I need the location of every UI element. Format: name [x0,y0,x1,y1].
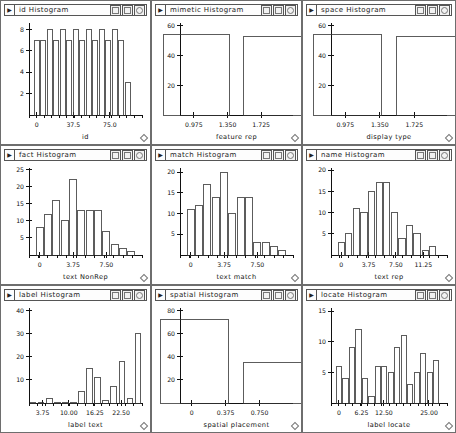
svg-text:5: 5 [20,234,24,241]
histogram-bar [244,362,301,403]
plot-area-id-histogram[interactable]: 2468037.575.0id [1,17,150,144]
histogram-bar [61,221,68,255]
close-circle-icon[interactable] [439,5,450,16]
resize-handle-icon[interactable] [291,134,298,141]
panel-title: id Histogram [15,5,110,15]
close-circle-icon[interactable] [285,5,296,16]
close-circle-icon[interactable] [285,290,296,301]
plot-area-spatial-histogram[interactable]: 2040608000.3750.750spatial placement [152,302,301,432]
menu-arrow-icon[interactable]: ▶ [307,290,317,300]
minimize-box-icon[interactable] [415,150,426,161]
histogram-bar [30,402,36,403]
svg-text:5: 5 [171,230,175,237]
minimize-box-icon[interactable] [110,5,121,16]
panel-match-histogram[interactable]: ▶match Histogram510152003.757.50text mat… [151,145,302,285]
close-circle-icon[interactable] [439,150,450,161]
titlebar-fact-histogram[interactable]: ▶fact Histogram [4,149,147,161]
panel-fact-histogram[interactable]: ▶fact Histogram51015202503.757.50text No… [0,145,151,285]
menu-arrow-icon[interactable]: ▶ [307,150,317,160]
window-controls [110,150,146,160]
resize-handle-icon[interactable] [445,274,452,281]
maximize-box-icon[interactable] [427,290,438,301]
maximize-box-icon[interactable] [273,150,284,161]
svg-text:25: 25 [16,166,24,173]
minimize-box-icon[interactable] [261,5,272,16]
resize-handle-icon[interactable] [140,134,147,141]
minimize-box-icon[interactable] [261,290,272,301]
plot-area-space-histogram[interactable]: 2040600.9751.3501.725display type [303,17,455,144]
window-controls [261,290,297,300]
histogram-bar [382,366,387,403]
resize-handle-icon[interactable] [445,134,452,141]
panel-space-histogram[interactable]: ▶space Histogram2040600.9751.3501.725dis… [302,0,456,145]
plot-area-locate-histogram[interactable]: 5101506.2512.5025.00label locate [303,302,455,432]
close-circle-icon[interactable] [134,290,145,301]
histogram-bar [369,397,374,403]
menu-arrow-icon[interactable]: ▶ [5,290,15,300]
histogram-bar [41,40,46,115]
maximize-box-icon[interactable] [122,5,133,16]
close-circle-icon-glyph [441,7,448,14]
close-circle-icon[interactable] [285,150,296,161]
menu-arrow-icon[interactable]: ▶ [156,5,166,15]
close-circle-icon-glyph [441,292,448,299]
svg-text:60: 60 [318,22,326,29]
titlebar-id-histogram[interactable]: ▶id Histogram [4,4,147,16]
histogram-bar [196,205,203,255]
panel-id-histogram[interactable]: ▶id Histogram2468037.575.0id [0,0,151,145]
maximize-box-icon[interactable] [273,290,284,301]
close-circle-icon-glyph [136,7,143,14]
menu-arrow-icon[interactable]: ▶ [307,5,317,15]
minimize-box-icon[interactable] [415,5,426,16]
close-circle-icon[interactable] [439,290,450,301]
minimize-box-icon[interactable] [110,290,121,301]
maximize-box-icon[interactable] [427,150,438,161]
titlebar-spatial-histogram[interactable]: ▶spatial Histogram [155,289,298,301]
histogram-bar [80,40,85,115]
titlebar-name-histogram[interactable]: ▶name Histogram [306,149,452,161]
plot-area-mimetic-histogram[interactable]: 2040600.9751.3501.725feature rep [152,17,301,144]
svg-text:8: 8 [20,26,24,33]
resize-handle-icon[interactable] [140,274,147,281]
histogram-bar [187,209,194,255]
minimize-box-icon[interactable] [415,290,426,301]
histogram-bar [271,247,278,255]
close-circle-icon[interactable] [134,5,145,16]
svg-text:6.25: 6.25 [355,409,369,416]
maximize-box-icon[interactable] [427,5,438,16]
panel-name-histogram[interactable]: ▶name Histogram510152003.757.5011.25text… [302,145,456,285]
titlebar-locate-histogram[interactable]: ▶locate Histogram [306,289,452,301]
resize-handle-icon[interactable] [291,422,298,429]
maximize-box-icon[interactable] [122,150,133,161]
resize-handle-icon[interactable] [291,274,298,281]
menu-arrow-icon[interactable]: ▶ [156,150,166,160]
panel-locate-histogram[interactable]: ▶locate Histogram5101506.2512.5025.00lab… [302,285,456,433]
titlebar-match-histogram[interactable]: ▶match Histogram [155,149,298,161]
menu-arrow-icon[interactable]: ▶ [5,150,15,160]
titlebar-mimetic-histogram[interactable]: ▶mimetic Histogram [155,4,298,16]
maximize-box-icon[interactable] [273,5,284,16]
close-circle-icon[interactable] [134,150,145,161]
plot-area-label-histogram[interactable]: 102030403.7510.0016.2522.50label text [1,302,150,432]
histogram-bar [369,191,375,255]
panel-label-histogram[interactable]: ▶label Histogram102030403.7510.0016.2522… [0,285,151,433]
svg-text:15: 15 [318,307,326,314]
titlebar-space-histogram[interactable]: ▶space Histogram [306,4,452,16]
svg-text:15: 15 [167,189,175,196]
plot-area-match-histogram[interactable]: 510152003.757.50text match [152,162,301,284]
maximize-box-icon[interactable] [122,290,133,301]
titlebar-label-histogram[interactable]: ▶label Histogram [4,289,147,301]
menu-arrow-icon[interactable]: ▶ [5,5,15,15]
svg-text:7.50: 7.50 [389,261,403,268]
plot-area-name-histogram[interactable]: 510152003.757.5011.25text rep [303,162,455,284]
resize-handle-icon[interactable] [140,422,147,429]
menu-arrow-icon[interactable]: ▶ [156,290,166,300]
svg-text:0: 0 [190,409,194,416]
minimize-box-icon[interactable] [110,150,121,161]
plot-area-fact-histogram[interactable]: 51015202503.757.50text NonRep [1,162,150,284]
panel-mimetic-histogram[interactable]: ▶mimetic Histogram2040600.9751.3501.725f… [151,0,302,145]
resize-handle-icon[interactable] [445,422,452,429]
panel-spatial-histogram[interactable]: ▶spatial Histogram2040608000.3750.750spa… [151,285,302,433]
svg-text:3.75: 3.75 [66,261,80,268]
minimize-box-icon[interactable] [261,150,272,161]
